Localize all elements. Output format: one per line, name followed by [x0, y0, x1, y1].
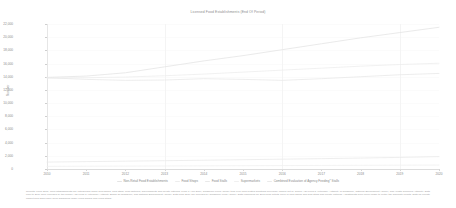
legend-label: Non-Retail Food Establishments — [123, 179, 167, 183]
x-tick-mark — [47, 169, 48, 171]
chart-page: Licensed Food Establishments (End Of Per… — [0, 0, 456, 208]
x-tick-label: 2014 — [200, 172, 207, 176]
y-tick-label: 0 — [11, 167, 13, 171]
x-tick-mark — [165, 169, 166, 171]
x-tick-mark — [361, 169, 362, 171]
chart-title: Licensed Food Establishments (End Of Per… — [0, 10, 456, 14]
series-line — [47, 157, 439, 162]
y-tick-label: 2,000 — [5, 154, 13, 158]
chart-legend: Non-Retail Food EstablishmentsFood Shops… — [0, 179, 456, 183]
x-tick-label: 2012 — [122, 172, 129, 176]
legend-item[interactable]: Combined Evaluation of Agency Feeding* S… — [267, 179, 339, 183]
x-tick-label: 2016 — [279, 172, 286, 176]
footnote: Reports: From 2001, food establishments … — [26, 190, 430, 200]
x-tick-label: 2011 — [83, 172, 90, 176]
x-tick-label: 2015 — [239, 172, 246, 176]
x-tick-mark — [282, 169, 283, 171]
x-tick-label: 2013 — [161, 172, 168, 176]
legend-swatch — [117, 181, 122, 182]
x-tick-mark — [125, 169, 126, 171]
y-tick-label: 20,000 — [3, 35, 13, 39]
x-tick-label: 2020 — [435, 172, 442, 176]
legend-label: Food Stalls — [212, 179, 227, 183]
legend-item[interactable]: Food Shops — [175, 179, 198, 183]
legend-label: Combined Evaluation of Agency Feeding* S… — [274, 179, 340, 183]
x-tick-mark — [204, 169, 205, 171]
y-tick-label: 6,000 — [5, 127, 13, 131]
x-tick-mark — [243, 169, 244, 171]
legend-item[interactable]: Food Stalls — [205, 179, 227, 183]
legend-label: Supermarkets — [241, 179, 260, 183]
legend-item[interactable]: Supermarkets — [234, 179, 260, 183]
x-tick-label: 2018 — [357, 172, 364, 176]
legend-label: Food Shops — [181, 179, 198, 183]
series-lines — [47, 24, 439, 169]
legend-swatch — [205, 181, 210, 182]
y-tick-label: 4,000 — [5, 141, 13, 145]
series-line — [47, 165, 439, 166]
x-tick-mark — [400, 169, 401, 171]
x-tick-label: 2017 — [318, 172, 325, 176]
y-tick-label: 22,000 — [3, 22, 13, 26]
y-tick-label: 14,000 — [3, 75, 13, 79]
y-tick-label: 10,000 — [3, 101, 13, 105]
x-tick-mark — [321, 169, 322, 171]
legend-swatch — [175, 181, 180, 182]
y-tick-label: 12,000 — [3, 88, 13, 92]
y-tick-label: 8,000 — [5, 114, 13, 118]
y-tick-label: 18,000 — [3, 48, 13, 52]
plot-area — [47, 24, 439, 169]
y-tick-label: 16,000 — [3, 62, 13, 66]
x-tick-label: 2010 — [43, 172, 50, 176]
legend-item[interactable]: Non-Retail Food Establishments — [117, 179, 168, 183]
legend-swatch — [267, 181, 272, 182]
series-line — [47, 27, 439, 77]
x-tick-mark — [439, 169, 440, 171]
x-tick-mark — [86, 169, 87, 171]
legend-swatch — [234, 181, 239, 182]
x-tick-label: 2019 — [396, 172, 403, 176]
